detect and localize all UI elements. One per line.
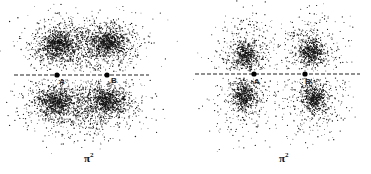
orbital-density-figure <box>0 0 371 174</box>
right-atom-a-label: A <box>254 78 260 86</box>
left-panel-caption: π2 <box>84 152 94 164</box>
nucleus-marker <box>251 71 256 76</box>
left-atom-a-label: A <box>59 78 65 86</box>
nucleus-marker <box>104 72 109 77</box>
left-pi-orbital-density <box>0 4 178 154</box>
nucleus-marker <box>302 71 307 76</box>
right-pi-orbital-density <box>193 0 355 152</box>
right-atom-b-label: B <box>305 78 311 86</box>
right-panel-caption: π2 <box>279 152 289 164</box>
left-atom-b-label: B <box>111 77 117 85</box>
